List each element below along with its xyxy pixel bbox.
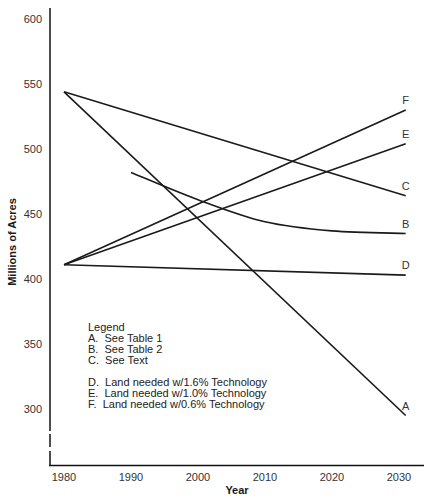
legend: Legend A. See Table 1 B. See Table 2 C. … [88, 322, 267, 410]
series-label-c: C [402, 180, 410, 192]
x-tick-label: 1980 [52, 471, 76, 483]
y-axis-title: Millions of Acres [6, 198, 18, 286]
series-line-f [64, 110, 406, 265]
y-tick-label: 550 [24, 78, 42, 90]
y-tick-label: 600 [24, 13, 42, 25]
x-tick-labels: 198019902000201020202030 [52, 471, 411, 483]
x-tick-label: 2010 [253, 471, 277, 483]
legend-entry-c: C. See Text [88, 355, 267, 366]
x-tick-label: 2030 [387, 471, 411, 483]
y-tick-labels: 300350400450500550600 [24, 13, 42, 415]
series-line-e [64, 144, 406, 265]
y-tick-label: 400 [24, 273, 42, 285]
series-label-b: B [402, 218, 409, 230]
y-tick-label: 450 [24, 208, 42, 220]
chart-canvas: 300350400450500550600 198019902000201020… [0, 0, 432, 499]
x-tick-label: 2000 [186, 471, 210, 483]
series-line-b [131, 172, 406, 233]
series-line-d [64, 265, 406, 275]
y-tick-label: 300 [24, 403, 42, 415]
series-label-e: E [402, 128, 409, 140]
series-label-d: D [402, 259, 410, 271]
series-label-a: A [402, 400, 410, 412]
series-label-f: F [402, 94, 409, 106]
series-line-c [64, 92, 406, 196]
x-tick-label: 2020 [320, 471, 344, 483]
x-tick-label: 1990 [119, 471, 143, 483]
y-tick-label: 500 [24, 143, 42, 155]
series-end-labels: ABCDEF [402, 94, 410, 412]
y-tick-label: 350 [24, 338, 42, 350]
legend-entry-f: F. Land needed w/0.6% Technology [88, 399, 267, 410]
x-axis-title: Year [225, 484, 249, 496]
